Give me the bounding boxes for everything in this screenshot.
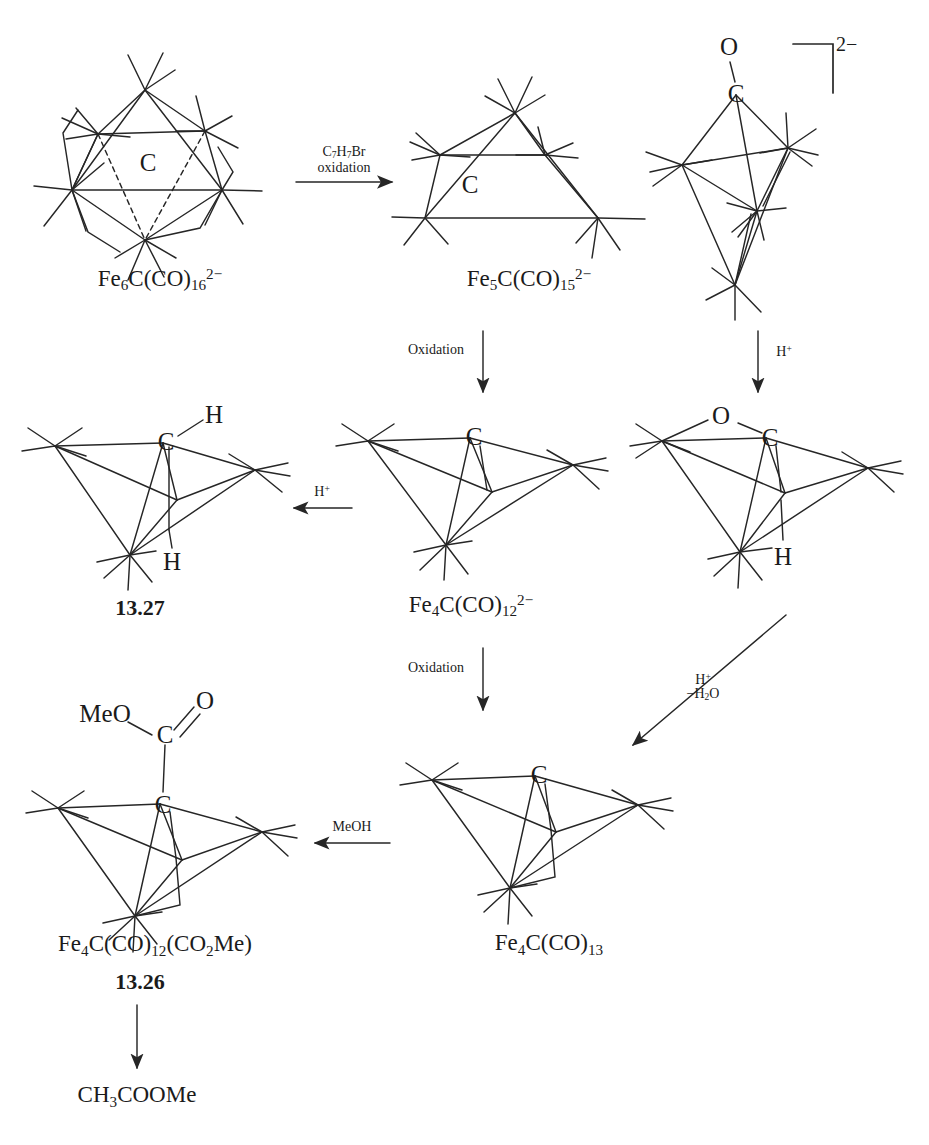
reagent-label-meoh: MeOH <box>333 820 372 834</box>
atom-label-h-top-1327: H <box>205 402 223 427</box>
reagent-label-hplus-water: H+−H2O <box>687 673 720 703</box>
formula-fe6: Fe6C(CO)162− <box>98 266 223 293</box>
charge-label-2minus: 2− <box>836 34 857 54</box>
atom-label-o-topright: O <box>720 34 738 59</box>
atom-label-c-fe6: C <box>140 150 157 175</box>
atom-label-c-fe4co13: C <box>531 762 548 787</box>
charge-bracket <box>793 44 833 93</box>
reagent-label-hplus-left: H+ <box>314 485 330 499</box>
structure-butterfly-ch2 <box>22 420 290 590</box>
formula-fe5: Fe5C(CO)152− <box>467 266 592 293</box>
formula-fe4-co13: Fe4C(CO)13 <box>495 931 603 956</box>
atom-label-c-fe5: C <box>462 172 479 197</box>
formula-product: CH3COOMe <box>78 1083 197 1108</box>
atom-label-h-bottom-1327: H <box>163 549 181 574</box>
atom-label-o-ester: O <box>196 688 214 713</box>
diagram-canvas: C Fe6C(CO)162− C7H7Broxidation C Fe5C(CO… <box>0 0 929 1145</box>
formula-fe4-dianion: Fe4C(CO)122− <box>409 592 534 619</box>
reagent-label-c7h7br: C7H7Broxidation <box>318 145 371 175</box>
compound-number-1326: 13.26 <box>115 971 165 993</box>
atom-label-c-ester-lower: C <box>155 792 172 817</box>
atom-label-c-fe4coh: C <box>762 425 779 450</box>
atom-label-c-ester-upper: C <box>157 722 174 747</box>
structure-fe5-bipyramid <box>392 77 645 258</box>
atom-label-meo: MeO <box>79 701 130 726</box>
reagent-label-oxidation-bottom: Oxidation <box>408 661 464 675</box>
reagent-label-hplus-top: H+ <box>776 345 792 359</box>
atom-label-o-fe4coh: O <box>712 403 730 428</box>
atom-label-c-1327: C <box>158 429 175 454</box>
reagent-label-oxidation-top: Oxidation <box>408 343 464 357</box>
compound-number-1327: 13.27 <box>115 597 165 619</box>
formula-fe4-co2me: Fe4C(CO)12(CO2Me) <box>58 932 252 957</box>
atom-label-c-fe4-dianion: C <box>466 424 483 449</box>
atom-label-h-fe4coh: H <box>774 544 792 569</box>
atom-label-c-topright: C <box>728 81 745 106</box>
